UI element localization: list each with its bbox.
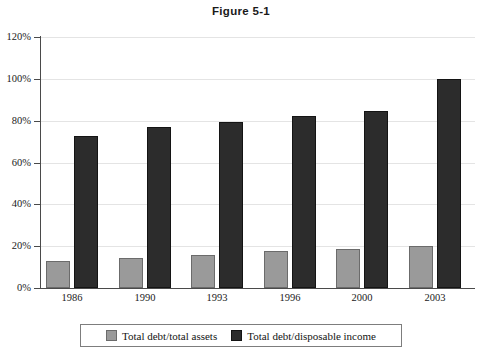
bar-1993-series-0: [191, 255, 215, 288]
x-axis-label-1993: 1993: [182, 292, 252, 303]
plot-area: [40, 37, 475, 288]
x-axis-line: [40, 288, 475, 289]
bar-1996-series-0: [264, 251, 288, 288]
y-axis-label: 100%: [0, 74, 31, 85]
legend-label-0: Total debt/total assets: [122, 330, 217, 342]
bar-1986-series-1: [74, 136, 98, 288]
legend-entry-1: Total debt/disposable income: [231, 330, 376, 342]
legend-swatch-icon-0: [106, 330, 117, 341]
legend-swatch-icon-1: [231, 330, 242, 341]
bar-2003-series-0: [409, 246, 433, 288]
y-axis-label: 60%: [0, 158, 31, 169]
chart-title: Figure 5-1: [0, 5, 482, 17]
x-axis-label-2003: 2003: [400, 292, 470, 303]
legend-entry-0: Total debt/total assets: [106, 330, 217, 342]
legend-label-1: Total debt/disposable income: [247, 330, 376, 342]
bar-1996-series-1: [292, 116, 316, 288]
bar-1993-series-1: [219, 122, 243, 288]
bar-1990-series-0: [119, 258, 143, 288]
y-axis-label: 20%: [0, 241, 31, 252]
x-axis-label-1996: 1996: [255, 292, 325, 303]
y-axis-label: 0%: [0, 283, 31, 294]
y-axis-label: 80%: [0, 116, 31, 127]
bar-2000-series-0: [336, 249, 360, 288]
bar-2003-series-1: [437, 79, 461, 288]
bar-1990-series-1: [147, 127, 171, 288]
chart-legend: Total debt/total assetsTotal debt/dispos…: [80, 324, 402, 347]
bar-1986-series-0: [46, 261, 70, 288]
figure-container: Figure 5-1 0%20%40%60%80%100%120% 198619…: [0, 0, 482, 359]
x-axis-label-1986: 1986: [37, 292, 107, 303]
y-axis-label: 40%: [0, 199, 31, 210]
y-tick-mark: [34, 288, 40, 289]
bar-2000-series-1: [364, 111, 388, 288]
x-axis-label-2000: 2000: [327, 292, 397, 303]
y-axis-label: 120%: [0, 32, 31, 43]
x-axis-label-1990: 1990: [110, 292, 180, 303]
